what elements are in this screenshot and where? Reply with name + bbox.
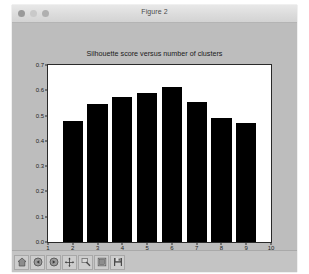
y-axis-tick-label: 0.6 <box>36 87 44 93</box>
bar <box>236 123 256 242</box>
zoom-button[interactable] <box>78 255 93 270</box>
figure-canvas: Silhouette score versus number of cluste… <box>12 23 297 250</box>
zoom-magnifier-icon <box>81 257 91 267</box>
y-axis-tick-mark <box>45 191 48 192</box>
y-axis-tick-label: 0.7 <box>36 62 44 68</box>
bar <box>162 87 182 243</box>
chart-title: Silhouette score versus number of cluste… <box>12 49 297 58</box>
y-axis-tick-mark <box>45 65 48 66</box>
plot-axes: 0.00.10.20.30.40.50.60.712345678910 <box>47 64 272 243</box>
back-arrow-icon <box>33 257 43 267</box>
y-axis-tick-label: 0.3 <box>36 163 44 169</box>
y-axis-tick-mark <box>45 216 48 217</box>
bar <box>137 93 157 242</box>
bar <box>87 104 107 242</box>
bar <box>187 102 207 242</box>
y-axis-tick-mark <box>45 115 48 116</box>
home-button[interactable] <box>14 255 29 270</box>
forward-arrow-icon <box>49 257 59 267</box>
plot-area <box>48 65 271 242</box>
pan-move-icon <box>64 257 75 268</box>
figure-window: Figure 2 Silhouette score versus number … <box>12 5 297 272</box>
y-axis-tick-label: 0.0 <box>36 239 44 245</box>
y-axis-tick-label: 0.4 <box>36 138 44 144</box>
forward-button[interactable] <box>46 255 61 270</box>
bar <box>112 97 132 242</box>
y-axis-tick-mark <box>45 140 48 141</box>
y-axis-tick-label: 0.5 <box>36 113 44 119</box>
bar <box>211 118 231 242</box>
window-title: Figure 2 <box>12 8 297 15</box>
y-axis-tick-mark <box>45 166 48 167</box>
y-axis-tick-label: 0.2 <box>36 188 44 194</box>
home-icon <box>17 257 27 267</box>
subplot-config-icon <box>97 257 107 267</box>
y-axis-tick-mark <box>45 90 48 91</box>
window-titlebar[interactable]: Figure 2 <box>12 5 297 23</box>
bar <box>63 121 83 242</box>
pan-button[interactable] <box>62 255 77 270</box>
screenshot-root: Figure 2 Silhouette score versus number … <box>0 0 309 274</box>
back-button[interactable] <box>30 255 45 270</box>
configure-subplots-button[interactable] <box>94 255 109 270</box>
floppy-disk-icon <box>113 257 123 267</box>
y-axis-tick-label: 0.1 <box>36 214 44 220</box>
save-button[interactable] <box>110 255 125 270</box>
navigation-toolbar <box>12 250 297 272</box>
